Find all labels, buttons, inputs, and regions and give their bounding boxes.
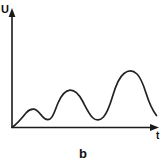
y-axis (9, 8, 16, 128)
figure-container: U t b (0, 0, 166, 164)
waveform-plot (0, 0, 166, 164)
y-axis-arrowhead (9, 8, 16, 17)
x-axis (12, 124, 159, 131)
y-axis-label: U (1, 4, 9, 15)
x-axis-label: t (156, 131, 159, 141)
figure-caption: b (0, 146, 166, 161)
signal-curve (13, 71, 157, 127)
